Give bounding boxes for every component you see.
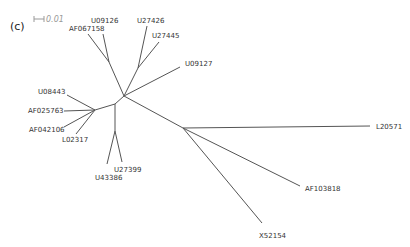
leaf-label-af042106: AF042106	[29, 126, 65, 134]
leaf-label-u08443: U08443	[38, 88, 65, 96]
leaf-label-af067158: AF067158	[69, 25, 105, 33]
leaf-label-u09126: U09126	[91, 17, 119, 25]
leaf-label-af103818: AF103818	[305, 185, 341, 193]
leaf-label-u27399: U27399	[114, 166, 141, 174]
leaf-label-u27445: U27445	[152, 32, 179, 40]
leaf-label-l02317: L02317	[62, 136, 88, 144]
branches	[64, 26, 370, 223]
leaf-label-l20571: L20571	[376, 123, 402, 131]
scale-bar-label: 0.01	[46, 15, 64, 24]
leaf-label-u09127: U09127	[185, 60, 212, 68]
leaf-label-u43386: U43386	[95, 174, 123, 182]
scale-bar: 0.01	[34, 15, 64, 24]
leaf-label-x52154: X52154	[259, 232, 287, 240]
phylogenetic-tree: 0.01 AF06715	[0, 0, 410, 247]
leaf-label-af025763: AF025763	[28, 107, 64, 115]
leaf-labels: AF067158 U09126 U27426 U27445 U09127 U08…	[28, 17, 402, 240]
leaf-label-u27426: U27426	[137, 17, 165, 25]
